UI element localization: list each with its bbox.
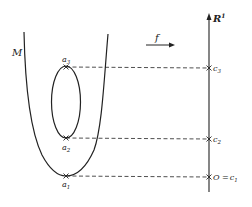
label-c2: c2 bbox=[213, 135, 221, 145]
map-label: f bbox=[154, 32, 161, 43]
label-c3: c3 bbox=[213, 64, 221, 74]
label-a3: a3 bbox=[62, 55, 71, 65]
axis-arrowhead-icon bbox=[207, 13, 212, 20]
axis-label: R1 bbox=[212, 12, 226, 24]
label-c1: O =c1 bbox=[213, 173, 238, 183]
manifold-inner-oval bbox=[52, 66, 81, 138]
label-a1: a1 bbox=[62, 180, 70, 190]
morse-diagram: M f R1 a3 a2 a1 c3 c2 O =c1 bbox=[0, 0, 252, 207]
manifold-outer-curve bbox=[24, 32, 108, 176]
label-a2: a2 bbox=[62, 143, 71, 153]
manifold-label: M bbox=[11, 47, 23, 58]
projection-line-a3 bbox=[66, 67, 209, 68]
map-arrowhead-icon bbox=[169, 43, 175, 48]
projection-line-a1 bbox=[66, 176, 209, 177]
projection-line-a2 bbox=[66, 138, 209, 139]
cross-markers bbox=[64, 65, 212, 180]
